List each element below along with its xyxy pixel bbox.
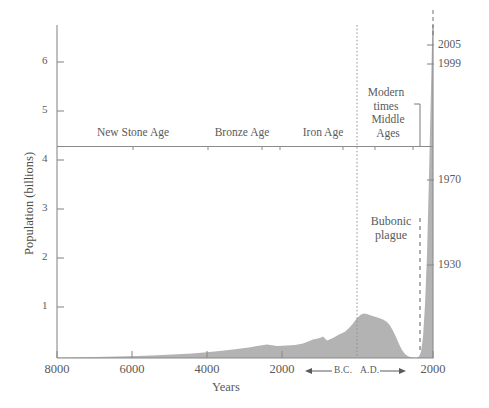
y-axis-ticks [57, 62, 64, 307]
year-label-1930: 1930 [438, 258, 461, 270]
era-boundary-ticks [133, 147, 413, 151]
x-tick-label-2000-ad: 2000 [416, 363, 450, 376]
annotation-bubonic-line2: plague [365, 229, 417, 242]
ad-arrow [380, 368, 406, 374]
x-tick-label-6000: 6000 [115, 363, 149, 376]
era-label-bronze-age: Bronze Age [201, 126, 283, 138]
population-area-path [57, 25, 433, 358]
population-chart: Population (billions) 6 5 4 3 2 1 8000 6… [0, 0, 489, 408]
era-label-new-stone-age: New Stone Age [76, 126, 190, 138]
era-label-iron-age: Iron Age [290, 126, 356, 138]
bc-arrow [305, 368, 332, 374]
annotation-bubonic-line1: Bubonic [365, 215, 417, 228]
ad-label: A.D. [360, 366, 379, 376]
y-tick-label-1: 1 [42, 300, 48, 312]
modern-times-leader [414, 104, 420, 146]
year-label-1999: 1999 [438, 57, 461, 69]
y-tick-label-5: 5 [42, 104, 48, 116]
x-axis-title: Years [212, 381, 240, 394]
year-label-2005: 2005 [438, 38, 461, 50]
y-axis-title: Population (billions) [22, 152, 37, 255]
y-tick-label-6: 6 [42, 55, 48, 67]
x-tick-label-8000: 8000 [40, 363, 74, 376]
x-tick-label-4000: 4000 [190, 363, 224, 376]
x-tick-label-2000-bc: 2000 [265, 363, 299, 376]
era-label-modern-times-line2: times [359, 100, 413, 112]
y-tick-label-2: 2 [42, 251, 48, 263]
bc-label: B.C. [334, 366, 352, 376]
year-label-1970: 1970 [438, 173, 461, 185]
y-tick-label-3: 3 [42, 202, 48, 214]
y-tick-label-4: 4 [42, 153, 48, 165]
chart-canvas [0, 0, 489, 408]
era-label-modern-times-line1: Modern [359, 86, 413, 98]
era-label-middle-ages-line2: Ages [362, 127, 414, 139]
era-label-middle-ages-line1: Middle [362, 113, 414, 125]
